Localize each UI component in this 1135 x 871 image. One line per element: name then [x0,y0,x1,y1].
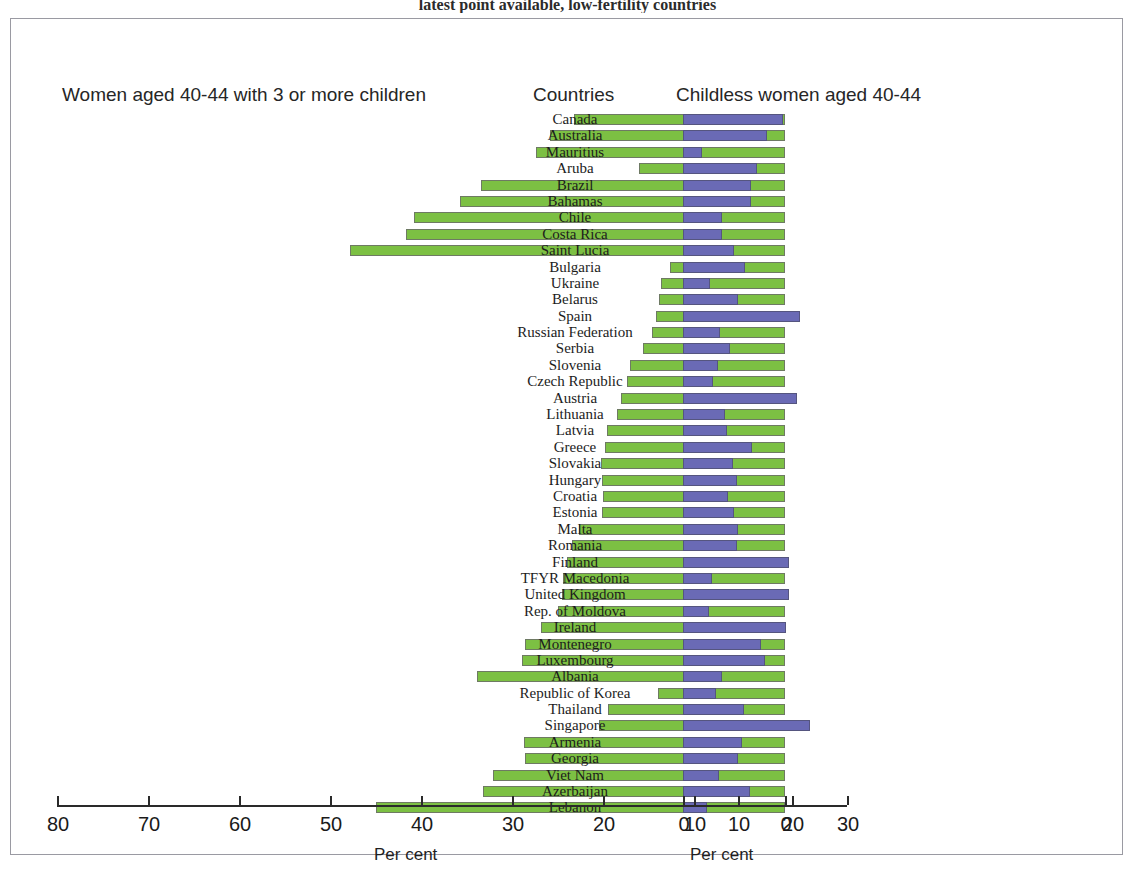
bar-childless-women [683,720,810,731]
chart-row: Brazil [0,178,1135,194]
axis-tick [57,796,59,805]
country-label: Brazil [490,177,660,193]
chart-row: Estonia [0,505,1135,521]
bar-childless-women [683,360,718,371]
bar-childless-women [683,147,702,158]
country-label: Rep. of Moldova [490,603,660,619]
country-label: Viet Nam [490,767,660,783]
bar-childless-women [683,294,738,305]
bar-childless-women [683,327,720,338]
chart-row: Lithuania [0,407,1135,423]
chart-row: Bulgaria [0,260,1135,276]
chart-row: Belarus [0,292,1135,308]
country-label: Bulgaria [490,259,660,275]
country-label: Greece [490,439,660,455]
country-label: Russian Federation [490,324,660,340]
bar-childless-women [683,245,734,256]
chart-row: Mauritius [0,145,1135,161]
bar-childless-women [683,540,737,551]
country-label: Belarus [490,291,660,307]
bar-childless-women [683,688,716,699]
country-label: Australia [490,127,660,143]
bar-childless-women [683,163,757,174]
bar-childless-women [683,704,744,715]
country-label: Spain [490,308,660,324]
bar-childless-women [683,393,797,404]
bar-childless-women [683,442,752,453]
axis-tick [330,796,332,805]
chart-row: Australia [0,128,1135,144]
bar-childless-women [683,409,725,420]
chart-row: Greece [0,440,1135,456]
chart-row: Albania [0,669,1135,685]
bar-childless-women [683,507,734,518]
chart-row: Viet Nam [0,768,1135,784]
chart-row: Canada [0,112,1135,128]
axis-line [683,805,847,807]
country-label: Finland [490,554,660,570]
bar-childless-women [683,770,719,781]
chart-row: Lebanon [0,800,1135,816]
chart-row: Chile [0,210,1135,226]
figure-caption: latest point available, low-fertility co… [0,0,1135,13]
chart-row: Singapore [0,718,1135,734]
country-label: Bahamas [490,193,660,209]
chart-row: TFYR Macedonia [0,571,1135,587]
axis-tick-label: 60 [220,813,260,836]
bar-childless-women [683,639,761,650]
axis-tick [694,796,696,805]
country-label: Lithuania [490,406,660,422]
country-label: Romania [490,537,660,553]
country-label: Luxembourg [490,652,660,668]
chart-row: Latvia [0,423,1135,439]
axis-tick [738,796,740,805]
bar-childless-women [683,737,742,748]
axis-tick-label: 40 [402,813,442,836]
axis-tick [792,796,794,805]
chart-row: Hungary [0,473,1135,489]
country-label: Chile [490,209,660,225]
country-label: Montenegro [490,636,660,652]
country-label: Azerbaijan [490,783,660,799]
bar-childless-women [683,196,751,207]
country-label: Ireland [490,619,660,635]
country-label: Ukraine [490,275,660,291]
country-label: TFYR Macedonia [490,570,660,586]
country-label: Hungary [490,472,660,488]
country-label: Latvia [490,422,660,438]
axis-tick [148,796,150,805]
axis-tick [512,796,514,805]
country-label: Armenia [490,734,660,750]
axis-tick-label: 0 [664,813,704,836]
chart-row: Slovenia [0,358,1135,374]
country-label: Slovenia [490,357,660,373]
bar-childless-women [683,589,789,600]
country-label: Republic of Korea [490,685,660,701]
chart-row: Georgia [0,751,1135,767]
chart-row: Thailand [0,702,1135,718]
chart-row: Russian Federation [0,325,1135,341]
country-label: Georgia [490,750,660,766]
bar-childless-women [683,458,733,469]
chart-row: Ukraine [0,276,1135,292]
axis-tick [603,796,605,805]
bar-childless-women [683,229,722,240]
axis-tick-label: 20 [773,813,813,836]
chart-row: United Kingdom [0,587,1135,603]
chart-row: Rep. of Moldova [0,604,1135,620]
chart-row: Aruba [0,161,1135,177]
axis-caption: Per cent [690,845,753,865]
bar-childless-women [683,671,722,682]
axis-tick [847,796,849,805]
country-label: Serbia [490,340,660,356]
axis-tick-label: 20 [584,813,624,836]
bar-three-or-more-children [661,278,785,289]
axis-tick [683,796,685,805]
chart-row: Slovakia [0,456,1135,472]
bar-childless-women [683,475,737,486]
country-label: Malta [490,521,660,537]
country-label: Canada [490,111,660,127]
bar-childless-women [683,606,709,617]
country-label: Austria [490,390,660,406]
bar-childless-women [683,557,789,568]
